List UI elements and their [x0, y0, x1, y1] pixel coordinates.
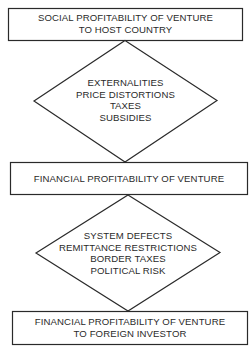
diamond2-label: SYSTEM DEFECTS REMITTANCE RESTRICTIONS B… — [36, 230, 220, 276]
diamond2-line-3: BORDER TAXES — [36, 253, 220, 265]
profitability-flow-diagram: SOCIAL PROFITABILITY OF VENTURE TO HOST … — [0, 0, 252, 354]
diamond1-line-2: PRICE DISTORTIONS — [34, 89, 217, 101]
box1-line-2: TO HOST COUNTRY — [8, 24, 243, 36]
box3-line-2: TO FOREIGN INVESTOR — [12, 328, 248, 340]
diamond1-line-4: SUBSIDIES — [34, 112, 217, 124]
box3-line-1: FINANCIAL PROFITABILITY OF VENTURE — [12, 316, 248, 328]
diamond2-line-1: SYSTEM DEFECTS — [36, 230, 220, 242]
diamond1-line-1: EXTERNALITIES — [34, 77, 217, 89]
social-profitability-label: SOCIAL PROFITABILITY OF VENTURE TO HOST … — [8, 12, 243, 35]
diamond2-line-2: REMITTANCE RESTRICTIONS — [36, 242, 220, 254]
financial-profitability-label: FINANCIAL PROFITABILITY OF VENTURE — [10, 173, 248, 185]
box1-line-1: SOCIAL PROFITABILITY OF VENTURE — [8, 12, 243, 24]
diamond2-line-4: POLITICAL RISK — [36, 265, 220, 277]
diamond1-label: EXTERNALITIES PRICE DISTORTIONS TAXES SU… — [34, 77, 217, 123]
diamond1-line-3: TAXES — [34, 100, 217, 112]
foreign-investor-profitability-label: FINANCIAL PROFITABILITY OF VENTURE TO FO… — [12, 316, 248, 339]
box2-line-1: FINANCIAL PROFITABILITY OF VENTURE — [10, 173, 248, 185]
